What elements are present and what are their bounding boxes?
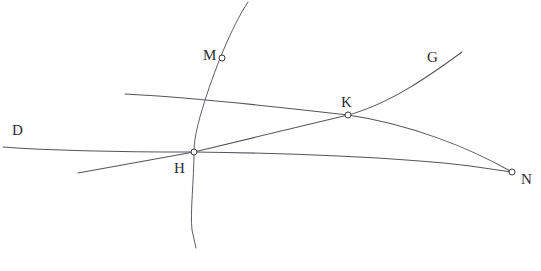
point-marker-k (345, 112, 351, 118)
curve-through-M-and-H (191, 2, 248, 248)
label-h: H (174, 161, 185, 176)
point-marker-h (191, 149, 197, 155)
label-d: D (12, 123, 23, 138)
figure-canvas (0, 0, 541, 271)
point-marker-m (219, 55, 225, 61)
label-k: K (341, 95, 352, 110)
label-n: N (521, 172, 532, 187)
figure-caption (0, 253, 541, 271)
label-g: G (427, 50, 438, 65)
geometry-figure: D M G K H N (0, 0, 541, 271)
label-m: M (203, 48, 216, 63)
curve-D-to-N (3, 147, 512, 172)
line-through-H-and-K-to-G (78, 52, 462, 173)
point-marker-n (509, 169, 515, 175)
